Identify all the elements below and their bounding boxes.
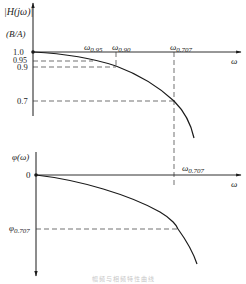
tick-0-9: 0.9 bbox=[17, 62, 28, 72]
phase-omega-0707-label: ω0.707 bbox=[182, 163, 205, 175]
phase-curve bbox=[36, 175, 197, 264]
magnitude-curve bbox=[33, 52, 194, 138]
magnitude-x-label: ω bbox=[231, 56, 237, 66]
phi-0707-label: φ0.707 bbox=[9, 223, 30, 235]
magnitude-y-label: |H(jω)| bbox=[4, 6, 33, 18]
magnitude-guides bbox=[33, 52, 174, 186]
figure-caption: 幅频与相频特性曲线 bbox=[0, 274, 246, 283]
frequency-response-diagram: |H(jω)| (B/A) 1.0 0.95 0.9 0.7 ω0.95 ω0.… bbox=[0, 0, 246, 284]
phase-origin-dot bbox=[34, 173, 38, 177]
tick-0-7: 0.7 bbox=[17, 96, 28, 106]
phase-y-label: φ(ω) bbox=[12, 152, 29, 162]
phase-origin-label: 0 bbox=[26, 170, 31, 180]
phase-plot: φ(ω) 0 φ0.707 ω0.707 ω bbox=[9, 152, 241, 276]
magnitude-y-unit: (B/A) bbox=[6, 29, 26, 39]
magnitude-plot: |H(jω)| (B/A) 1.0 0.95 0.9 0.7 ω0.95 ω0.… bbox=[4, 3, 241, 186]
magnitude-origin-dot bbox=[31, 50, 35, 54]
phase-x-label: ω bbox=[231, 179, 237, 189]
